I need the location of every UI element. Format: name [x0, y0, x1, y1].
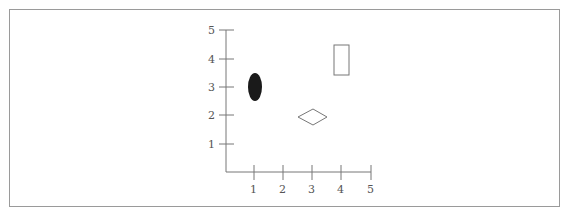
x-tick-label: 2 [279, 183, 286, 196]
diamond-shape [298, 109, 327, 125]
filled-ellipse-shape [248, 73, 262, 101]
y-tick-label: 1 [208, 138, 215, 151]
y-tick-label: 4 [208, 53, 215, 66]
x-tick-label: 4 [337, 183, 344, 196]
x-tick-label: 5 [367, 183, 374, 196]
coordinate-plot: 1 2 3 4 5 1 2 3 4 5 [0, 0, 568, 213]
y-tick-label: 2 [208, 109, 215, 122]
rectangle-shape [334, 45, 349, 75]
y-tick-labels: 1 2 3 4 5 [208, 24, 215, 151]
y-tick-label: 5 [208, 24, 215, 37]
y-tick-label: 3 [208, 81, 215, 94]
x-tick-labels: 1 2 3 4 5 [250, 183, 374, 196]
x-tick-label: 1 [250, 183, 257, 196]
x-tick-label: 3 [308, 183, 315, 196]
